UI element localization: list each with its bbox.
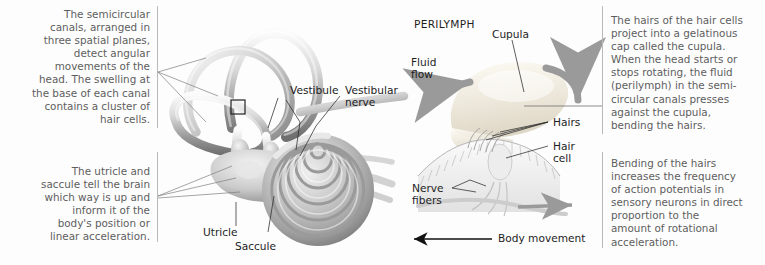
nerve-to-caption-arrow [518,205,572,207]
label-vestibular-nerve: Vestibular nerve [345,84,407,109]
label-hair-cell: Hair cell [553,140,593,165]
label-fluid-flow: Fluid flow [411,56,453,81]
label-utricle: Utricle [203,226,238,238]
divider-right-bottom [602,152,603,248]
cochlea-illustration [262,134,374,246]
divider-right-top [602,6,603,134]
label-hairs: Hairs [553,116,580,128]
label-perilymph: PERILYMPH [414,18,475,30]
label-saccule: Saccule [235,240,276,252]
label-vestibule: Vestibule [290,84,338,96]
label-body-movement: Body movement [498,232,585,244]
caption-top-right: The hairs of the hair cells project into… [611,14,757,132]
divider-left-top [157,6,158,128]
label-nerve-fibers: Nerve fibers [412,182,460,207]
divider-left-bottom [157,152,158,242]
label-cupula: Cupula [492,28,529,40]
caption-top-left: The semicircular canals, arranged in thr… [22,8,150,126]
inner-ear-vestibular-figure: The semicircular canals, arranged in thr… [0,0,765,265]
caption-bottom-right: Bending of the hairs increases the frequ… [611,157,757,249]
caption-bottom-left: The utricle and saccule tell the brain w… [22,165,150,244]
